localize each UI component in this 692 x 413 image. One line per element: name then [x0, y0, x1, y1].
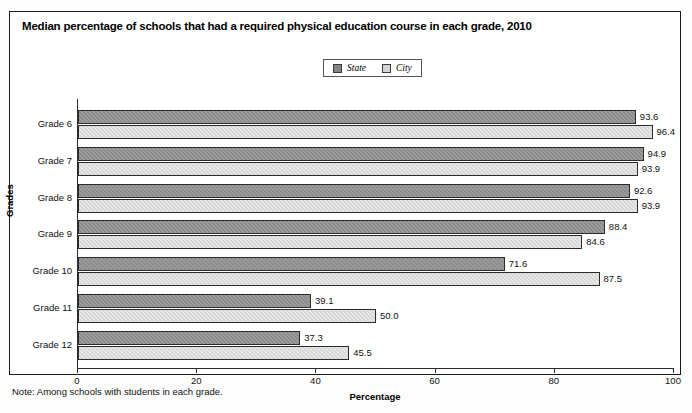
bar-value-label: 93.9: [642, 200, 661, 211]
x-tick-label: 20: [191, 375, 202, 386]
legend-swatch-city-icon: [382, 64, 391, 73]
x-tick-mark: [435, 368, 436, 373]
bar-city[interactable]: [78, 162, 638, 176]
bar-city[interactable]: [78, 346, 349, 360]
x-tick-label: 0: [74, 375, 79, 386]
x-tick-label: 60: [429, 375, 440, 386]
legend-item-city: City: [382, 63, 412, 73]
x-tick-mark: [77, 368, 78, 373]
bar-state[interactable]: [78, 220, 605, 234]
bar-value-label: 50.0: [380, 310, 399, 321]
x-tick-label: 80: [549, 375, 560, 386]
y-axis-label-grade-7: Grade 7: [38, 155, 72, 166]
bar-value-label: 93.9: [642, 163, 661, 174]
x-tick-mark: [315, 368, 316, 373]
x-tick-label: 40: [310, 375, 321, 386]
bar-value-label: 39.1: [315, 295, 334, 306]
legend-label-state: State: [347, 63, 366, 73]
legend-item-state: State: [333, 63, 366, 73]
y-axis-label-grade-8: Grade 8: [38, 192, 72, 203]
bar-value-label: 71.6: [509, 258, 528, 269]
bar-value-label: 37.3: [304, 332, 323, 343]
bar-value-label: 93.6: [640, 111, 659, 122]
x-tick-label: 100: [665, 375, 681, 386]
chart-legend: State City: [323, 59, 422, 77]
bar-value-label: 45.5: [353, 347, 372, 358]
figure-page: Median percentage of schools that had a …: [0, 0, 692, 413]
bar-state[interactable]: [78, 184, 630, 198]
bar-state[interactable]: [78, 294, 311, 308]
x-tick-mark: [673, 368, 674, 373]
y-axis-label-grade-12: Grade 12: [32, 339, 72, 350]
bar-city[interactable]: [78, 309, 376, 323]
bar-city[interactable]: [78, 125, 653, 139]
x-tick-mark: [554, 368, 555, 373]
bar-city[interactable]: [78, 235, 582, 249]
legend-swatch-state-icon: [333, 64, 342, 73]
bar-state[interactable]: [78, 147, 644, 161]
x-axis-title: Percentage: [349, 391, 400, 402]
bar-value-label: 96.4: [657, 126, 676, 137]
bar-value-label: 87.5: [604, 273, 623, 284]
y-axis-label-grade-9: Grade 9: [38, 228, 72, 239]
y-axis-label-grade-11: Grade 11: [33, 302, 72, 313]
x-tick-mark: [196, 368, 197, 373]
chart-title: Median percentage of schools that had a …: [22, 20, 532, 32]
bar-value-label: 88.4: [609, 221, 628, 232]
y-axis-label-grade-6: Grade 6: [38, 118, 72, 129]
chart-frame: Median percentage of schools that had a …: [9, 11, 681, 375]
bar-state[interactable]: [78, 331, 300, 345]
legend-label-city: City: [396, 63, 412, 73]
plot-area: 93.696.494.993.992.693.988.484.671.687.5…: [77, 99, 673, 369]
bar-city[interactable]: [78, 199, 638, 213]
bar-state[interactable]: [78, 257, 505, 271]
bar-value-label: 94.9: [648, 148, 667, 159]
x-axis-line: [77, 368, 674, 369]
bar-state[interactable]: [78, 110, 636, 124]
bar-city[interactable]: [78, 272, 600, 286]
bar-value-label: 92.6: [634, 185, 653, 196]
y-axis-category-labels: Grade 6Grade 7Grade 8Grade 9Grade 10Grad…: [10, 99, 72, 369]
bar-value-label: 84.6: [586, 236, 605, 247]
figure-note: Note: Among schools with students in eac…: [12, 386, 223, 397]
y-axis-label-grade-10: Grade 10: [32, 265, 72, 276]
